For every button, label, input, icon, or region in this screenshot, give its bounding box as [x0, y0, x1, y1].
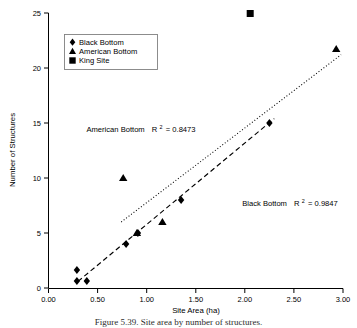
x-axis: 0.00 0.50 1.00 1.50 2.00 2.50 3.00 Site …: [41, 289, 350, 315]
legend-label-american-bottom: American Bottom: [79, 47, 137, 56]
annot-am-value: = 0.8473: [166, 125, 196, 134]
svg-text:Black Bottom R: Black Bottom R 2 = 0.9847: [242, 196, 338, 208]
annot-am-sup: 2: [159, 124, 162, 130]
data-point-diamond: [123, 240, 129, 248]
x-tick-label-100: 1.00: [139, 295, 154, 304]
data-point-diamond: [74, 266, 80, 274]
annot-bb-stat: R: [294, 199, 300, 208]
annot-am-label: American Bottom: [86, 125, 144, 134]
x-tick-label-050: 0.50: [90, 295, 105, 304]
x-tick-label-150: 1.50: [188, 295, 203, 304]
y-tick-label-0: 0: [37, 284, 41, 293]
figure-caption: Figure 5.39. Site area by number of stru…: [0, 317, 357, 327]
y-axis-title: Number of Structures: [8, 113, 17, 187]
y-tick-label-20: 20: [33, 64, 41, 73]
y-axis: 0 5 10 15 20 25 Number of Structures: [8, 9, 49, 293]
annotation-american-bottom-r2: American Bottom R 2 = 0.8473: [86, 122, 195, 134]
square-icon: [69, 57, 75, 63]
y-tick-label-15: 15: [33, 119, 41, 128]
y-tick-label-10: 10: [33, 174, 41, 183]
legend-label-king-site: King Site: [79, 56, 109, 65]
x-axis-title: Site Area (ha): [172, 306, 220, 315]
data-point-diamond: [266, 119, 272, 127]
figure-container: 0 5 10 15 20 25 Number of Structures 0.0…: [0, 0, 357, 328]
annot-am-stat: R: [152, 125, 158, 134]
x-tick-label-300: 3.00: [336, 295, 351, 304]
american-bottom-trendline: [121, 55, 341, 222]
svg-text:American Bottom R: American Bottom R 2 = 0.8473: [86, 122, 195, 134]
x-tick-label-200: 2.00: [237, 295, 252, 304]
trendlines: [78, 55, 341, 282]
data-point-triangle: [158, 218, 166, 225]
legend-label-black-bottom: Black Bottom: [79, 38, 124, 47]
data-point-square: [247, 10, 254, 17]
annot-bb-sup: 2: [302, 198, 305, 204]
legend: Black Bottom American Bottom King Site: [65, 35, 158, 70]
x-tick-label-000: 0.00: [41, 295, 56, 304]
y-tick-label-25: 25: [33, 9, 41, 18]
data-point-triangle: [332, 45, 340, 52]
scatter-plot: 0 5 10 15 20 25 Number of Structures 0.0…: [0, 0, 357, 328]
data-point-triangle: [119, 174, 127, 181]
annotation-black-bottom-r2: Black Bottom R 2 = 0.9847: [242, 196, 338, 208]
annot-bb-label: Black Bottom: [242, 199, 287, 208]
data-point-diamond: [84, 277, 90, 285]
annot-bb-value: = 0.9847: [308, 199, 338, 208]
data-points-king-site: [247, 10, 254, 17]
legend-item-american-bottom: American Bottom: [69, 47, 137, 56]
data-point-diamond: [74, 277, 80, 285]
y-tick-label-5: 5: [37, 229, 41, 238]
x-tick-label-250: 2.50: [287, 295, 302, 304]
